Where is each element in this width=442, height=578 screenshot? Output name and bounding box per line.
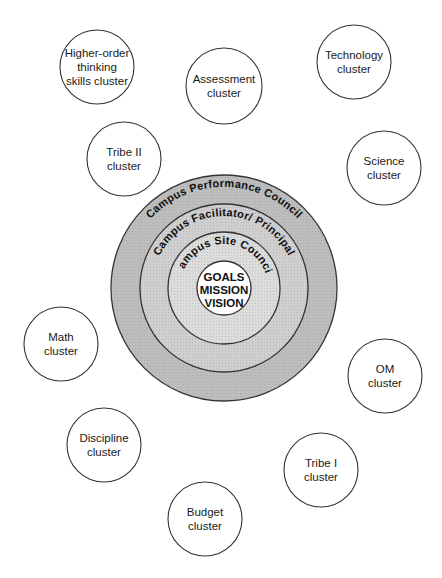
cluster-assessment: Assessmentcluster (186, 48, 262, 124)
cluster-label: skills cluster (66, 75, 128, 87)
cluster-math: Mathcluster (24, 307, 98, 381)
cluster-label: cluster (367, 169, 401, 181)
cluster-label: cluster (87, 446, 121, 458)
core-label-vision: VISION (205, 297, 244, 309)
core-circle: GOALSMISSIONVISION (197, 261, 251, 315)
cluster-tribe-i: Tribe Icluster (284, 433, 358, 507)
cluster-label: cluster (207, 87, 241, 99)
cluster-tribe-ii: Tribe IIcluster (87, 122, 161, 196)
cluster-label: cluster (337, 63, 371, 75)
cluster-label: Tribe II (106, 146, 141, 158)
cluster-label: Technology (325, 49, 383, 61)
cluster-label: OM (376, 363, 395, 375)
cluster-label: cluster (107, 160, 141, 172)
organization-diagram: Campus Performance CouncilCampus Facilit… (0, 0, 442, 578)
cluster-label: Math (48, 331, 74, 343)
cluster-budget: Budgetcluster (168, 482, 242, 556)
cluster-label: cluster (188, 520, 222, 532)
cluster-technology: Technologycluster (317, 25, 391, 99)
cluster-label: cluster (368, 377, 402, 389)
cluster-label: cluster (304, 471, 338, 483)
cluster-higher-order-thinking: Higher-orderthinkingskills cluster (60, 30, 134, 104)
cluster-label: Assessment (193, 73, 256, 85)
cluster-label: cluster (44, 345, 78, 357)
cluster-label: Science (364, 155, 405, 167)
core-label-mission: MISSION (200, 284, 249, 296)
cluster-science: Sciencecluster (347, 131, 421, 205)
cluster-label: thinking (77, 61, 117, 73)
cluster-label: Discipline (79, 432, 128, 444)
cluster-label: Higher-order (65, 47, 130, 59)
cluster-om: OMcluster (348, 339, 422, 413)
core-label-goals: GOALS (204, 271, 245, 283)
cluster-label: Budget (187, 506, 224, 518)
cluster-label: Tribe I (305, 457, 337, 469)
diagram-canvas: Campus Performance CouncilCampus Facilit… (0, 0, 442, 578)
cluster-discipline: Disciplinecluster (67, 408, 141, 482)
